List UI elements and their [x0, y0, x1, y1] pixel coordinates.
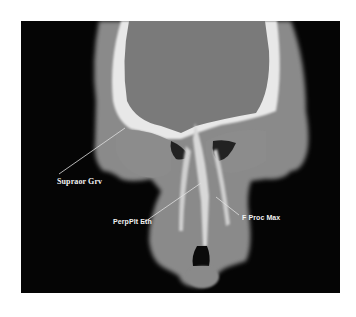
label-perpendicular-plate-ethmoid: PerpPlt Eth — [113, 218, 152, 225]
ct-scan-image: Supraor Grv PerpPlt Eth F Proc Max — [21, 21, 340, 293]
ct-skull-illustration — [21, 21, 340, 293]
label-supraorbital-groove: Supraor Grv — [57, 177, 102, 186]
label-frontal-process-maxilla: F Proc Max — [242, 214, 280, 221]
